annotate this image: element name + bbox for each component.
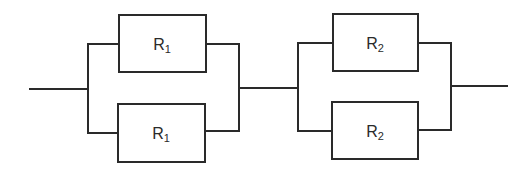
circuit-diagram: R1 R1 R2 R2 bbox=[0, 0, 527, 173]
resistor-r1-bottom: R1 bbox=[118, 104, 205, 162]
group-2-left-junction bbox=[298, 43, 333, 131]
group-2-right-junction bbox=[418, 43, 451, 130]
group-1-right-junction bbox=[205, 44, 239, 131]
resistor-r2-bottom: R2 bbox=[332, 102, 418, 159]
resistor-r2-top: R2 bbox=[333, 14, 418, 71]
resistor-r1-top: R1 bbox=[119, 15, 206, 72]
group-1-left-junction bbox=[88, 44, 119, 133]
